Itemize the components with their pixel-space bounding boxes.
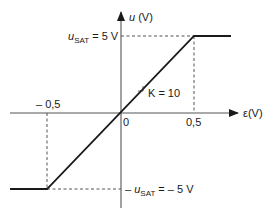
slope-label: K = 10 <box>148 87 180 99</box>
upper-sat-label: uSAT = 5 V <box>68 30 119 45</box>
y-axis-label: u (V) <box>129 11 153 23</box>
transfer-characteristic-diagram: u (V) uSAT = 5 V K = 10 – 0,5 0 0,5 ε(V)… <box>0 0 274 216</box>
x-axis-label: ε(V) <box>243 107 263 119</box>
origin-label: 0 <box>123 116 129 128</box>
x-tick-pos-label: 0,5 <box>186 116 201 128</box>
lower-sat-label: – uSAT = – 5 V <box>125 183 194 198</box>
x-tick-neg-label: – 0,5 <box>36 98 60 110</box>
